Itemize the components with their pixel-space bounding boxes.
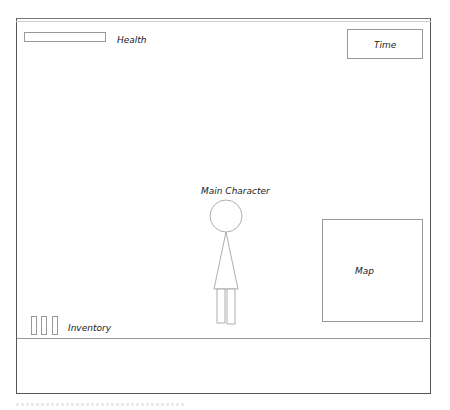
inventory-label: Inventory [68,323,111,333]
character-right-leg-icon [227,289,235,324]
map-label: Map [355,266,374,276]
character-left-leg-icon [217,289,225,323]
character-head-icon [210,200,242,232]
time-display: Time [347,29,423,59]
health-label: Health [117,35,147,45]
footer-caption-blur [16,403,186,406]
top-rule [16,21,431,22]
time-label: Time [374,40,396,50]
character-body-icon [214,232,238,289]
main-character-label: Main Character [201,186,270,196]
inventory-slot-3[interactable] [52,316,58,335]
inventory-slot-1[interactable] [31,316,37,335]
health-bar [24,32,106,42]
minimap[interactable]: Map [322,219,423,322]
hud-divider [17,338,431,339]
inventory-slot-2[interactable] [41,316,47,335]
main-character[interactable] [205,199,255,329]
